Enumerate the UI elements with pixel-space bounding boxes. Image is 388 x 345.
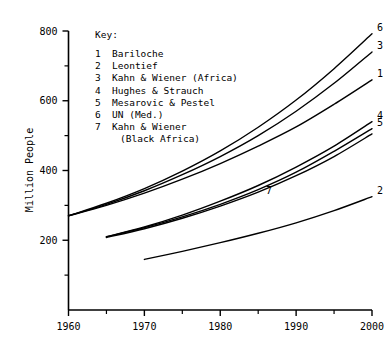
legend-number: 1 (95, 48, 101, 59)
series-line-5 (106, 129, 372, 237)
population-projection-chart: 200400600800 19601970198019902000 Millio… (0, 0, 388, 345)
legend-key: Key: 1Bariloche2Leontief3Kahn & Wiener (… (95, 29, 238, 144)
y-tick-label: 200 (39, 235, 57, 246)
x-axis-ticks (69, 310, 373, 316)
legend-title: Key: (95, 29, 118, 40)
x-axis-tick-labels: 19601970198019902000 (56, 321, 384, 332)
series-label-1: 1 (377, 68, 383, 79)
x-tick-label: 1970 (132, 321, 156, 332)
legend-label-cont: (Black Africa) (120, 133, 200, 144)
legend-label: Hughes & Strauch (112, 85, 204, 96)
series-line-7 (106, 134, 372, 238)
series-label-5: 5 (377, 117, 383, 128)
x-tick-label: 1990 (284, 321, 308, 332)
series-line-2 (144, 197, 372, 260)
legend-number: 5 (95, 97, 101, 108)
y-axis-title: Million People (24, 128, 35, 212)
legend-label: Kahn & Wiener (112, 121, 187, 132)
legend-number: 7 (95, 121, 101, 132)
series-label-6: 6 (377, 22, 383, 33)
legend-label: Mesarovic & Pestel (112, 97, 215, 108)
y-tick-label: 400 (39, 165, 57, 176)
legend-label: UN (Med.) (112, 109, 163, 120)
legend-label: Bariloche (112, 48, 164, 59)
legend-label: Leontief (112, 60, 158, 71)
series-label-3: 3 (377, 40, 383, 51)
legend-number: 4 (95, 85, 101, 96)
y-axis-ticks (63, 31, 69, 275)
y-tick-label: 600 (39, 95, 57, 106)
legend-number: 6 (95, 109, 101, 120)
series-label-2: 2 (377, 185, 383, 196)
x-tick-label: 1960 (56, 321, 80, 332)
x-tick-label: 1980 (208, 321, 232, 332)
chart-svg: 200400600800 19601970198019902000 Millio… (0, 0, 388, 345)
y-axis-tick-labels: 200400600800 (39, 26, 57, 246)
legend-label: Kahn & Wiener (Africa) (112, 72, 238, 83)
legend-number: 2 (95, 60, 101, 71)
series-label-7: 7 (266, 185, 272, 196)
legend-number: 3 (95, 72, 101, 83)
x-tick-label: 2000 (360, 321, 384, 332)
y-tick-label: 800 (39, 26, 57, 37)
